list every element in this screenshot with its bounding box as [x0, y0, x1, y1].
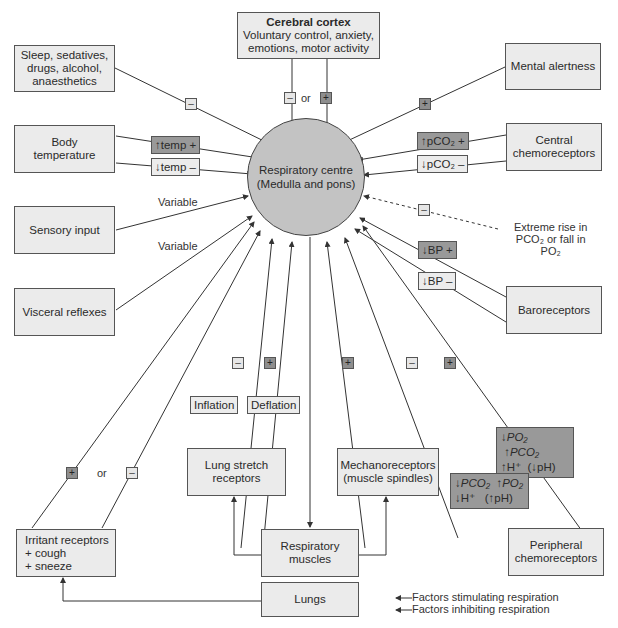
peripheral-chemoreceptors-box: Peripheral chemoreceptors	[508, 528, 604, 576]
sleep-sedatives-box: Sleep, sedatives, drugs, alcohol, anaest…	[14, 45, 115, 92]
legend-stimulating: Factors stimulating respiration	[412, 591, 559, 603]
pco2-increase-tag: ↑pCO₂ +	[417, 132, 469, 150]
respiration-diagram: Respiratory centre (Medulla and pons) Ce…	[0, 0, 618, 628]
mechanoreceptors-box: Mechanoreceptors (muscle spindles)	[337, 448, 439, 496]
extreme-change-label: Extreme rise in PCO₂ or fall in PO₂	[514, 221, 587, 257]
variable-label-sensory: Variable	[158, 196, 198, 208]
irritant-receptors-box: Irritant receptors + cough + sneeze	[16, 529, 116, 577]
cerebral-cortex-body: Voluntary control, anxiety, emotions, mo…	[243, 29, 374, 55]
plus-sign-peripheral: +	[444, 357, 456, 369]
minus-sign-extreme: –	[418, 204, 430, 216]
visceral-reflexes-box: Visceral reflexes	[14, 288, 115, 336]
mental-alertness-box: Mental alertness	[505, 43, 601, 90]
inflation-tag: Inflation	[190, 396, 238, 414]
peripheral-stimulating-conditions: ↓PO₂ ↑PCO₂ ↑H⁺ (↓pH)	[496, 427, 574, 478]
variable-label-visceral: Variable	[158, 240, 198, 252]
minus-sign-cortex: –	[284, 92, 296, 104]
cerebral-cortex-title: Cerebral cortex	[266, 16, 350, 29]
peripheral-inhibiting-conditions: ↓PCO₂ ↑PO₂ ↓H⁺ (↑pH)	[450, 473, 529, 509]
baroreceptors-box: Baroreceptors	[506, 286, 602, 334]
respiratory-muscles-box: Respiratory muscles	[261, 529, 359, 577]
lung-stretch-receptors-box: Lung stretch receptors	[187, 448, 286, 496]
temp-increase-tag: ↑temp +	[151, 136, 200, 154]
lungs-box: Lungs	[261, 582, 359, 617]
minus-sign-inflation: –	[232, 357, 244, 369]
deflation-tag: Deflation	[247, 396, 300, 414]
body-temperature-box: Body temperature	[14, 125, 115, 173]
or-label-irritant: or	[97, 467, 107, 479]
plus-sign-deflation: +	[264, 357, 276, 369]
central-chemoreceptors-box: Central chemoreceptors	[506, 123, 602, 171]
pco2-decrease-tag: ↓pCO₂ –	[417, 155, 468, 173]
bp-plus-tag: ↓BP +	[418, 241, 457, 259]
plus-sign-mechano: +	[342, 357, 354, 369]
plus-sign-irritant: +	[66, 467, 78, 479]
or-label-cortex: or	[301, 92, 311, 104]
sensory-input-box: Sensory input	[14, 206, 115, 254]
plus-sign-mental: +	[419, 98, 431, 110]
plus-sign-cortex: +	[320, 92, 332, 104]
temp-decrease-tag: ↓temp –	[151, 158, 200, 176]
legend-inhibiting: Factors inhibiting respiration	[412, 603, 550, 615]
cerebral-cortex-box: Cerebral cortex Voluntary control, anxie…	[237, 12, 380, 59]
respiratory-centre: Respiratory centre (Medulla and pons)	[247, 118, 365, 236]
bp-minus-tag: ↓BP –	[418, 272, 456, 290]
minus-sign-peripheral: –	[406, 357, 418, 369]
minus-sign-sleep: –	[185, 98, 197, 110]
minus-sign-irritant: –	[126, 467, 138, 479]
